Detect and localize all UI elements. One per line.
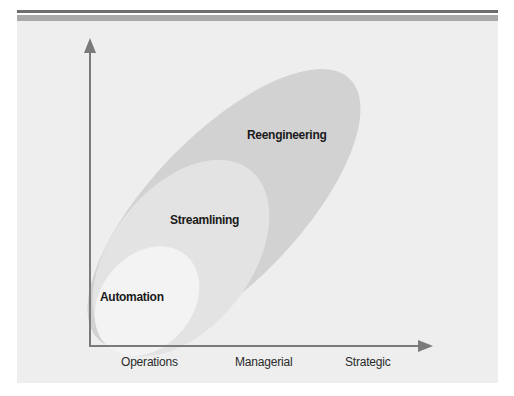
nested-ellipse-diagram: Reengineering Streamlining Automation Op…: [0, 0, 514, 396]
reengineering-label: Reengineering: [247, 128, 326, 142]
x-label-operations: Operations: [121, 355, 178, 369]
x-label-strategic: Strategic: [345, 355, 391, 369]
y-axis-arrow-icon: [84, 38, 96, 53]
x-label-managerial: Managerial: [235, 355, 292, 369]
streamlining-label: Streamlining: [170, 213, 239, 227]
automation-label: Automation: [100, 290, 164, 304]
x-axis-arrow-icon: [418, 340, 433, 352]
